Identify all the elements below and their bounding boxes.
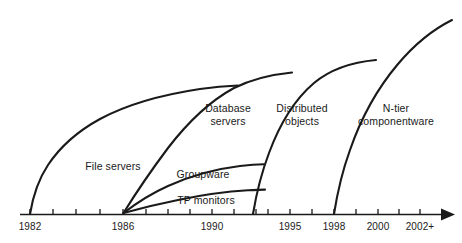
axis-ticks [30, 209, 420, 215]
axis-arrow-icon [441, 209, 455, 221]
label-n-tier-componentware: N-tier componentware [358, 102, 434, 128]
label-distributed-objects: Distributed objects [276, 102, 327, 128]
tick-label-2002-plus: 2002+ [406, 221, 435, 232]
curve-database-servers [124, 73, 293, 214]
label-groupware: Groupware [177, 168, 230, 181]
label-database-servers-line2: servers [205, 115, 251, 128]
tick-label-1986: 1986 [112, 221, 135, 232]
label-distributed-objects-line2: objects [276, 115, 327, 128]
label-groupware-line1: Groupware [177, 168, 230, 181]
tick-label-1982: 1982 [19, 221, 42, 232]
tick-label-1998: 1998 [323, 221, 346, 232]
tick-label-1995: 1995 [279, 221, 302, 232]
tick-label-2000: 2000 [367, 221, 390, 232]
curve-distributed-objects [253, 60, 376, 214]
axis-group [20, 209, 455, 221]
label-n-tier-componentware-line2: componentware [358, 115, 434, 128]
label-n-tier-componentware-line1: N-tier [358, 102, 434, 115]
label-tp-monitors: TP monitors [177, 194, 235, 207]
label-file-servers: File servers [85, 160, 140, 173]
label-database-servers: Database servers [205, 102, 251, 128]
technology-adoption-curve-figure: 1982 1986 1990 1995 1998 2000 2002+ File… [0, 0, 462, 243]
label-database-servers-line1: Database [205, 102, 251, 115]
tick-label-1990: 1990 [201, 221, 224, 232]
label-file-servers-line1: File servers [85, 160, 140, 173]
label-distributed-objects-line1: Distributed [276, 102, 327, 115]
label-tp-monitors-line1: TP monitors [177, 194, 235, 207]
